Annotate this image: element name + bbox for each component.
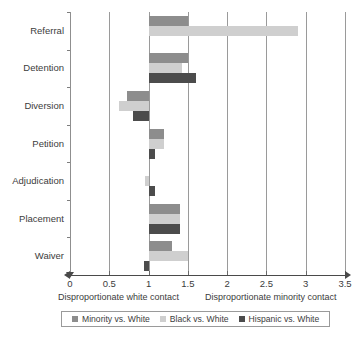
category-label: Waiver: [0, 251, 64, 261]
gridline: [227, 12, 228, 275]
legend-swatch-icon: [239, 316, 245, 322]
category-label: Detention: [0, 63, 64, 73]
bar: [149, 149, 155, 159]
y-axis-line: [70, 12, 71, 275]
legend-label: Hispanic vs. White: [249, 314, 320, 324]
bar: [149, 63, 183, 73]
right-axis-caption: Disproportionate minority contact: [205, 292, 337, 302]
plot-area: [70, 12, 345, 275]
legend-item[interactable]: Minority vs. White: [72, 314, 150, 324]
gridline: [109, 12, 110, 275]
category-label: Diversion: [0, 101, 64, 111]
bar: [119, 101, 149, 111]
category-label: Referral: [0, 26, 64, 36]
x-axis-left-arrow-icon: [64, 271, 70, 279]
bar: [149, 241, 173, 251]
legend-item[interactable]: Black vs. White: [160, 314, 229, 324]
bar: [149, 73, 196, 83]
legend-swatch-icon: [72, 316, 78, 322]
gridline: [306, 12, 307, 275]
bar: [144, 261, 149, 271]
left-axis-caption: Disproportionate white contact: [58, 292, 179, 302]
x-axis-tick-label: 1: [129, 278, 169, 289]
x-axis-tick-label: 2.5: [246, 278, 286, 289]
bar: [149, 16, 188, 26]
bar: [127, 91, 148, 101]
x-axis-tick-label: 0.5: [89, 278, 129, 289]
x-axis-tick-label: 0: [50, 278, 90, 289]
category-label: Adjudication: [0, 176, 64, 186]
bar: [149, 26, 298, 36]
chart-legend: Minority vs. WhiteBlack vs. WhiteHispani…: [61, 311, 330, 327]
bar: [149, 204, 180, 214]
bar: [149, 53, 188, 63]
bar-chart: ReferralDetentionDiversionPetitionAdjudi…: [0, 0, 362, 340]
gridline: [345, 12, 346, 275]
legend-swatch-icon: [160, 316, 166, 322]
bar: [149, 139, 165, 149]
x-axis-line: [70, 275, 345, 276]
category-label: Placement: [0, 214, 64, 224]
category-label: Petition: [0, 139, 64, 149]
bar: [133, 111, 149, 121]
x-axis-tick-label: 3.5: [325, 278, 362, 289]
bar: [149, 224, 180, 234]
bar: [149, 129, 165, 139]
legend-label: Minority vs. White: [82, 314, 150, 324]
legend-label: Black vs. White: [170, 314, 229, 324]
bar: [149, 214, 180, 224]
x-axis-tick-label: 3: [286, 278, 326, 289]
bar: [149, 251, 188, 261]
gridline: [266, 12, 267, 275]
gridline: [188, 12, 189, 275]
x-axis-tick-label: 1.5: [168, 278, 208, 289]
legend-item[interactable]: Hispanic vs. White: [239, 314, 320, 324]
bar: [145, 176, 149, 186]
x-axis-tick-label: 2: [207, 278, 247, 289]
bar: [149, 186, 155, 196]
x-axis-right-arrow-icon: [345, 271, 351, 279]
